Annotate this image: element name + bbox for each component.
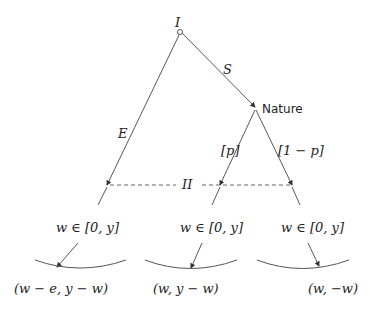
payoff: (w − e, y − w) xyxy=(14,281,108,296)
edge-label-s: S xyxy=(223,62,232,77)
edge xyxy=(292,187,300,205)
edge-label-p: [p] xyxy=(221,143,240,158)
game-tree: I E S Nature [p] [1 − p] II w ∈ [0, y] w… xyxy=(0,0,370,312)
choice-label: w ∈ [0, y] xyxy=(56,220,120,235)
payoff: (w, −w) xyxy=(308,281,358,296)
choice-label: w ∈ [0, y] xyxy=(281,220,345,235)
edge-label-e: E xyxy=(117,126,128,141)
root-label: I xyxy=(174,15,181,30)
payoff: (w, y − w) xyxy=(153,281,219,296)
edge xyxy=(98,187,107,205)
continuum-curve xyxy=(257,260,349,269)
nature-label: Nature xyxy=(262,102,303,116)
edge xyxy=(212,187,220,205)
arrow xyxy=(57,243,78,267)
arrow xyxy=(191,243,202,268)
arrow xyxy=(308,243,319,266)
edge-e xyxy=(107,33,180,185)
edge-s xyxy=(182,33,255,107)
edge-label-1-p: [1 − p] xyxy=(278,143,325,158)
root-node xyxy=(178,30,183,35)
choice-label: w ∈ [0, y] xyxy=(180,220,244,235)
continuum-curve xyxy=(35,260,126,268)
info-set-label: II xyxy=(181,177,193,192)
